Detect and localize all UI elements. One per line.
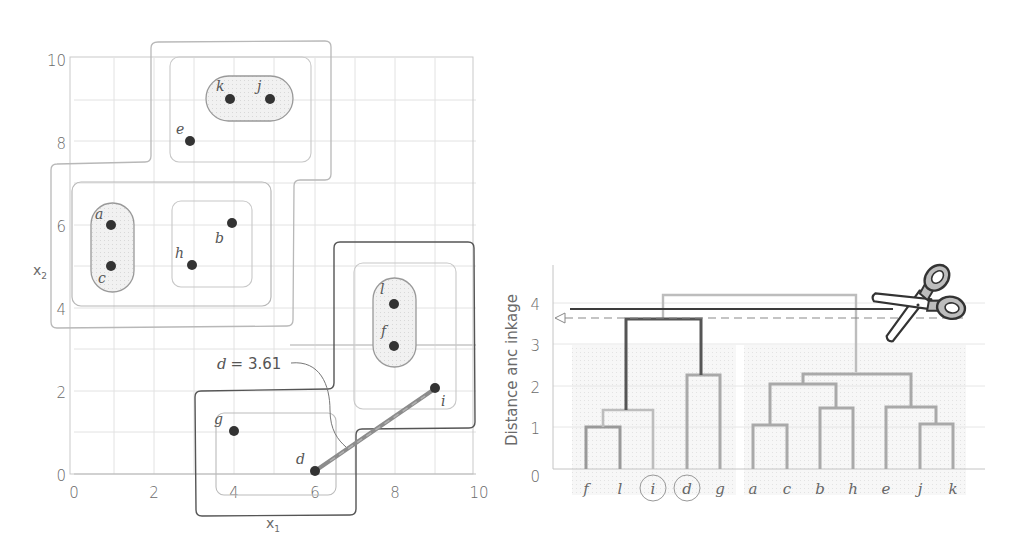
svg-text:6: 6 [56,218,66,236]
svg-text:g: g [214,411,223,427]
annotation-leader [291,363,346,447]
svg-text:a: a [95,206,103,222]
svg-text:4: 4 [229,484,239,502]
point-h[interactable] [187,260,197,270]
svg-text:k: k [216,78,224,94]
point-i[interactable] [430,383,440,393]
x-axis-label: x1 [266,515,280,534]
svg-text:d: d [682,480,692,498]
svg-text:10: 10 [47,52,66,70]
cut-marker-triangle-icon [555,313,565,323]
point-b[interactable] [227,218,237,228]
point-g[interactable] [229,426,239,436]
svg-text:1: 1 [530,420,540,438]
svg-text:3: 3 [530,337,540,355]
dendrogram: 0 1 2 3 4 Distance anc inkage [503,253,985,501]
dendro-y-ticks: 0 1 2 3 4 [530,296,540,486]
svg-text:i: i [651,480,656,498]
svg-text:e: e [176,121,184,137]
svg-text:8: 8 [56,135,66,153]
point-e[interactable] [185,136,195,146]
svg-text:a: a [749,480,758,498]
svg-text:4: 4 [56,301,66,319]
svg-text:b: b [215,230,224,246]
point-c[interactable] [106,261,116,271]
svg-text:0: 0 [56,467,66,485]
svg-text:g: g [715,480,725,498]
svg-text:10: 10 [469,484,488,502]
svg-text:2: 2 [149,484,159,502]
svg-text:0: 0 [530,468,540,486]
figure-canvas: 0 2 4 6 8 10 0 2 4 6 8 10 x1 x2 [0,0,1016,557]
dendro-y-label: Distance anc inkage [503,294,521,446]
point-f[interactable] [389,341,399,351]
point-l[interactable] [389,299,399,309]
svg-text:4: 4 [530,296,540,314]
cluster-box-hb [172,201,252,287]
svg-text:k: k [948,480,957,498]
svg-text:h: h [175,245,184,261]
scissors-icon [861,253,975,358]
scatter-plot: 0 2 4 6 8 10 0 2 4 6 8 10 x1 x2 [33,41,489,534]
y-tick-labels: 0 2 4 6 8 10 [47,52,66,485]
svg-text:2: 2 [56,384,66,402]
point-d[interactable] [310,466,320,476]
distance-annotation: d= 3.61 [217,355,281,373]
svg-text:6: 6 [310,484,320,502]
svg-text:h: h [848,480,858,498]
svg-text:l: l [380,281,384,297]
svg-text:c: c [98,270,106,286]
point-a[interactable] [106,220,116,230]
point-j[interactable] [265,94,275,104]
svg-text:c: c [783,480,792,498]
point-k[interactable] [225,94,235,104]
svg-text:b: b [815,480,825,498]
svg-text:8: 8 [390,484,400,502]
svg-text:i: i [441,393,445,409]
x-tick-labels: 0 2 4 6 8 10 [69,484,488,502]
svg-text:2: 2 [530,379,540,397]
svg-text:d: d [296,451,305,467]
svg-text:0: 0 [69,484,79,502]
svg-text:l: l [618,480,623,498]
y-axis-label: x2 [33,262,47,281]
cluster-hull-top-left [51,41,331,328]
cluster-hull-bottom-right [195,242,475,516]
svg-text:e: e [882,480,891,498]
